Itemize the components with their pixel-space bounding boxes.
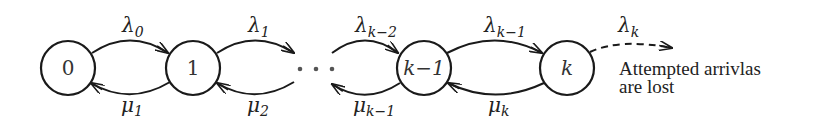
departure-edge-km1-dots <box>332 83 400 95</box>
arrival-rate-label: λk−1 <box>483 13 526 40</box>
state-label-1: 1 <box>187 56 200 80</box>
arrival-rate-label: λk <box>617 13 639 40</box>
ellipsis-dot <box>298 67 303 72</box>
arrival-rate-label: λk−2 <box>354 13 397 40</box>
arrival-edge-dots-km1 <box>332 41 398 54</box>
state-label-k: k <box>561 56 573 80</box>
state-label-0: 0 <box>62 56 75 80</box>
departure-rate-label: μ1 <box>121 93 143 119</box>
state-node-k: k <box>540 41 594 95</box>
departure-rate-label: μk−1 <box>353 93 395 119</box>
departure-rate-label: μ2 <box>247 93 269 119</box>
state-node-0: 0 <box>41 41 95 95</box>
ellipsis-dot <box>330 67 335 72</box>
arrival-edge-1-dots <box>217 41 294 54</box>
state-node-1: 1 <box>166 41 220 95</box>
state-node-k-minus-1: k−1 <box>397 41 451 95</box>
departure-rate-label: μk <box>488 93 509 119</box>
arrival-edge-km1-k <box>447 41 542 54</box>
arrival-rate-label: λ1 <box>247 13 270 40</box>
lost-arrivals-note-line2: are lost <box>619 76 675 97</box>
arrival-edge-0-1 <box>92 41 168 54</box>
ellipsis <box>298 67 335 72</box>
arrival-edge-k-lost <box>590 44 672 52</box>
arrival-rate-label: λ0 <box>121 13 144 40</box>
ellipsis-dot <box>314 67 319 72</box>
birth-death-diagram: 0 1 k−1 k λ0 λ1 λk−2 λk−1 λk μ1 μ2 μk−1 … <box>0 0 829 125</box>
state-label-k-minus-1: k−1 <box>403 56 445 80</box>
